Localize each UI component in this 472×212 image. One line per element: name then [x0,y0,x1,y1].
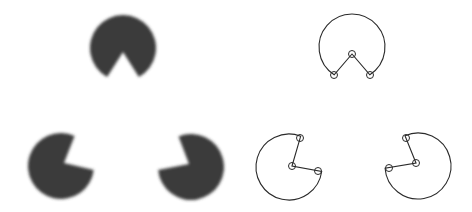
filled-pacmen-panel [28,15,224,200]
outline-pacmen-panel [256,14,451,200]
pacman-outline-bottom-left [256,134,322,200]
kanizsa-figure [0,0,472,212]
pacman-bottom-right [158,134,224,200]
pacman-bottom-left [28,133,94,199]
pacman-outline-top [319,14,385,78]
pacman-top [90,15,156,77]
pacman-outline-bottom-right [385,133,451,199]
